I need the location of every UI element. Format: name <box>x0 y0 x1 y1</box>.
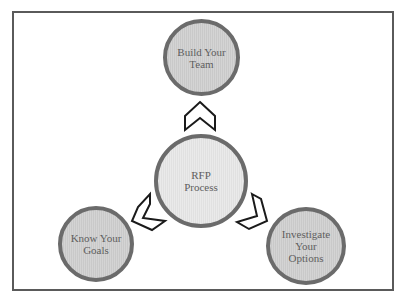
node-label-line: Options <box>289 252 324 264</box>
node-label-line: Team <box>189 58 213 70</box>
node-label-line: Know Your <box>71 232 122 244</box>
node-label-line: Build Your <box>177 46 225 58</box>
node-investigate-your-options: Investigate Your Options <box>266 207 346 285</box>
node-know-your-goals: Know Your Goals <box>58 206 134 282</box>
node-build-your-team: Build Your Team <box>163 19 240 96</box>
node-rfp-process: RFP Process <box>154 134 248 228</box>
node-label-line: Investigate <box>282 228 330 240</box>
node-label-line: RFP <box>191 169 211 181</box>
chevron-up-icon <box>185 102 215 130</box>
node-label-line: Your <box>295 240 317 252</box>
node-label-line: Goals <box>83 244 109 256</box>
node-label-line: Process <box>184 181 218 193</box>
